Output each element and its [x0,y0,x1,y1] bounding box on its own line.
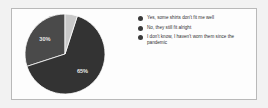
pie-chart: 30% 65% [24,13,106,95]
legend-bullet-icon [138,16,143,21]
legend-bullet-icon [138,35,143,40]
legend-item-label: I don't know, I haven't worn them since … [147,34,254,46]
legend-item-label: Yes, some shirts don't fit me well [147,15,214,21]
pie-chart-svg: 30% 65% [24,13,106,95]
chart-legend: Yes, some shirts don't fit me well No, t… [138,15,254,50]
legend-item[interactable]: I don't know, I haven't worn them since … [138,34,254,46]
legend-bullet-icon [138,26,143,31]
pie-chart-area: 30% 65% [12,9,132,99]
legend-item-label: No, they still fit alright [147,25,191,31]
legend-item[interactable]: No, they still fit alright [138,25,254,31]
legend-item[interactable]: Yes, some shirts don't fit me well [138,15,254,21]
screenshot-root: 30% 65% Yes, some shirts don't fit me we… [0,0,268,108]
pie-label-65: 65% [77,68,88,74]
pie-label-30: 30% [39,36,50,42]
chart-card: 30% 65% Yes, some shirts don't fit me we… [11,8,257,100]
